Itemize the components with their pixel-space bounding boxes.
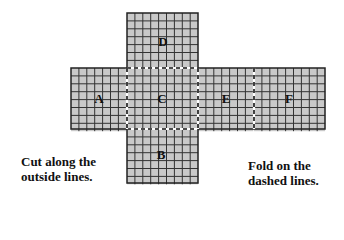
fold-instruction-line2: dashed lines.	[248, 173, 319, 188]
fold-instruction: Fold on the dashed lines.	[248, 158, 319, 188]
panel-label-a: A	[94, 91, 104, 106]
panel-label-f: F	[285, 91, 293, 106]
panel-label-e: E	[222, 91, 231, 106]
panel-label-d: D	[158, 34, 167, 49]
cut-instruction: Cut along the outside lines.	[21, 154, 96, 184]
panel-label-b: B	[157, 147, 166, 162]
panel-label-c: C	[157, 91, 166, 106]
cut-instruction-line1: Cut along the	[21, 154, 96, 169]
fold-instruction-line1: Fold on the	[248, 158, 319, 173]
cut-instruction-line2: outside lines.	[21, 169, 96, 184]
